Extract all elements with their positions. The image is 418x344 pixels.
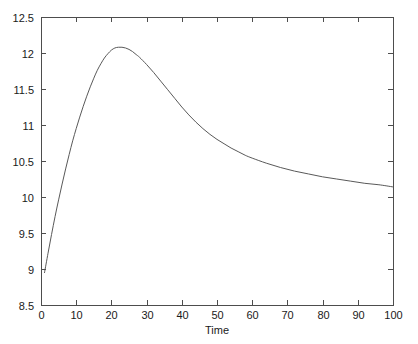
y-tick-label: 12 xyxy=(22,48,34,60)
y-tick-label: 12.5 xyxy=(13,12,34,24)
line-chart: 0102030405060708090100 8.599.51010.51111… xyxy=(0,0,418,344)
x-tick-label: 10 xyxy=(70,309,82,321)
y-tick-label: 10.5 xyxy=(13,156,34,168)
y-tick-label: 10 xyxy=(22,192,34,204)
x-axis-ticks: 0102030405060708090100 xyxy=(38,17,402,321)
x-tick-label: 100 xyxy=(384,309,402,321)
series-group xyxy=(45,47,393,272)
x-tick-label: 20 xyxy=(105,309,117,321)
y-tick-label: 9 xyxy=(28,264,34,276)
x-tick-label: 80 xyxy=(317,309,329,321)
x-tick-label: 50 xyxy=(211,309,223,321)
x-tick-label: 90 xyxy=(352,309,364,321)
x-tick-label: 70 xyxy=(281,309,293,321)
axes-frame xyxy=(42,18,394,306)
y-axis-ticks: 8.599.51010.51111.51212.5 xyxy=(13,12,393,312)
data-line-response xyxy=(45,47,393,272)
y-tick-label: 9.5 xyxy=(19,228,34,240)
x-tick-label: 0 xyxy=(38,309,44,321)
y-tick-label: 11 xyxy=(23,120,34,132)
y-tick-label: 11.5 xyxy=(13,84,34,96)
figure-canvas: 0102030405060708090100 8.599.51010.51111… xyxy=(0,0,418,344)
x-tick-label: 40 xyxy=(176,309,188,321)
x-tick-label: 60 xyxy=(246,309,258,321)
x-tick-label: 30 xyxy=(141,309,153,321)
y-tick-label: 8.5 xyxy=(19,300,34,312)
x-axis-title: Time xyxy=(205,324,229,336)
